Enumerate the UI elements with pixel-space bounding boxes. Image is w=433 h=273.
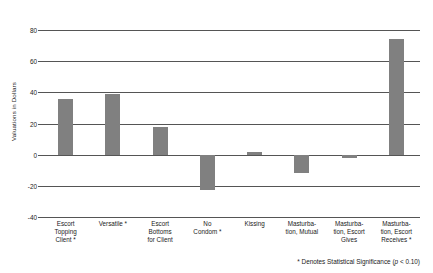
- y-tick-label: 20: [30, 120, 37, 127]
- bar: [200, 155, 215, 191]
- x-axis-label: NoCondom *: [184, 220, 231, 236]
- bars: [42, 30, 420, 217]
- y-axis-title: Valuations in Dollars: [10, 52, 17, 172]
- x-axis-label-line: Escort: [137, 220, 184, 228]
- x-axis-label: Masturba-tion, EscortGives: [326, 220, 373, 245]
- x-axis-label-line: No: [184, 220, 231, 228]
- footnote: * Denotes Statistical Significance (p < …: [0, 258, 420, 265]
- x-axis-label-line: Client *: [42, 236, 89, 244]
- y-tick-label: 80: [30, 27, 37, 34]
- bar: [153, 127, 168, 155]
- x-axis-label-line: Bottoms: [137, 228, 184, 236]
- x-axis-label-line: tion, Escort: [373, 228, 420, 236]
- x-axis-label-line: Gives: [326, 236, 373, 244]
- x-axis-label: Versatile *: [89, 220, 136, 228]
- x-axis-label-line: Escort: [42, 220, 89, 228]
- x-axis-labels: EscortToppingClient *Versatile *EscortBo…: [42, 220, 420, 260]
- gridline--40: [42, 217, 420, 218]
- x-axis-label: Masturba-tion, Mutual: [278, 220, 325, 236]
- tick-mark--40: [38, 217, 42, 218]
- x-axis-label: Kissing: [231, 220, 278, 228]
- bar: [58, 99, 73, 155]
- x-axis-label: EscortToppingClient *: [42, 220, 89, 245]
- bar: [342, 155, 357, 158]
- x-axis-label-line: tion, Mutual: [278, 228, 325, 236]
- x-axis-label-line: Condom *: [184, 228, 231, 236]
- x-axis-label: Masturba-tion, EscortReceives *: [373, 220, 420, 245]
- x-axis-label-line: Masturba-: [278, 220, 325, 228]
- x-axis-label-line: Topping: [42, 228, 89, 236]
- footnote-suffix: < 0.10): [398, 258, 420, 265]
- footnote-prefix: * Denotes Statistical Significance (: [297, 258, 394, 265]
- bar: [389, 39, 404, 154]
- y-tick-label: 40: [30, 89, 37, 96]
- x-axis-label-line: for Client: [137, 236, 184, 244]
- bar: [294, 155, 309, 174]
- y-tick-label: 0: [33, 151, 37, 158]
- bar: [105, 94, 120, 155]
- x-axis-label-line: Versatile *: [89, 220, 136, 228]
- plot-area: -40-20020406080: [42, 30, 420, 217]
- y-tick-label: -40: [28, 214, 37, 221]
- y-tick-label: 60: [30, 58, 37, 65]
- bar-chart: Valuations in Dollars -40-20020406080 Es…: [0, 0, 433, 273]
- x-axis-label-line: Kissing: [231, 220, 278, 228]
- x-axis-label-line: Masturba-: [373, 220, 420, 228]
- x-axis-label: EscortBottomsfor Client: [137, 220, 184, 245]
- x-axis-label-line: Masturba-: [326, 220, 373, 228]
- bar: [247, 152, 262, 154]
- y-tick-label: -20: [28, 182, 37, 189]
- x-axis-label-line: Receives *: [373, 236, 420, 244]
- x-axis-label-line: tion, Escort: [326, 228, 373, 236]
